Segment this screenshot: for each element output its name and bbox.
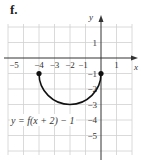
endpoint-left xyxy=(36,71,41,76)
y-tick: −3 xyxy=(87,100,97,110)
x-tick: −4 xyxy=(34,60,44,70)
x-tick: −2 xyxy=(65,60,75,70)
x-tick: −5 xyxy=(9,60,19,70)
y-tick: −4 xyxy=(87,115,97,125)
grid xyxy=(8,24,132,155)
y-axis-arrow-icon xyxy=(99,15,104,22)
y-tick: −1 xyxy=(87,69,97,79)
y-tick: 1 xyxy=(93,38,98,48)
y-axis-label: y xyxy=(88,12,93,22)
x-axis-label: x xyxy=(133,62,138,72)
endpoint-right xyxy=(98,71,103,76)
equation-label: y = f(x + 2) − 1 xyxy=(10,115,75,127)
x-tick: −3 xyxy=(50,60,60,70)
graph: x y −5 −4 −3 −2 −1 1 1 −1 −2 −3 −4 −5 y … xyxy=(0,0,141,163)
y-tick: −5 xyxy=(87,131,97,141)
x-axis-arrow-icon xyxy=(131,56,138,61)
x-tick: 1 xyxy=(114,60,119,70)
y-tick: −2 xyxy=(87,84,97,94)
x-tick: −1 xyxy=(78,60,88,70)
